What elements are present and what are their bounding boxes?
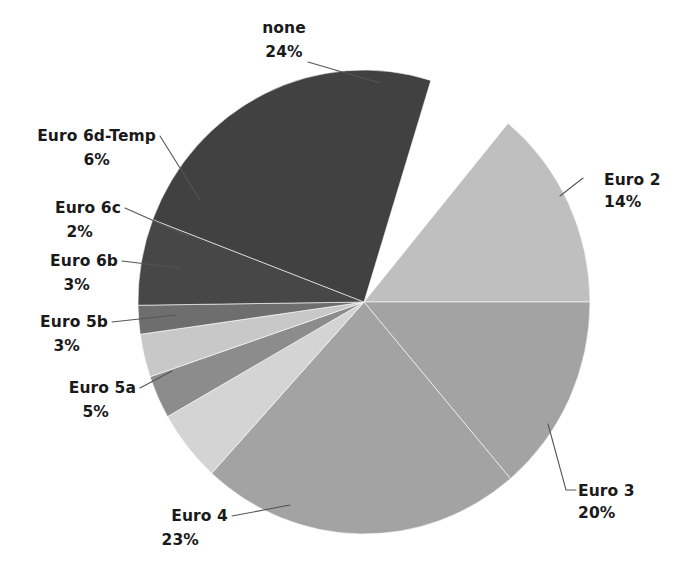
slice-label-percent-euro-4: 23% bbox=[162, 531, 200, 549]
slice-label-name-euro-6c: Euro 6c bbox=[55, 199, 121, 217]
slice-label-percent-euro-2: 14% bbox=[604, 193, 642, 211]
slice-label-name-euro-6b: Euro 6b bbox=[50, 252, 118, 270]
slice-label-name-euro-6d-temp: Euro 6d-Temp bbox=[37, 127, 156, 145]
slice-label-name-euro-4: Euro 4 bbox=[171, 507, 228, 525]
slice-label-percent-euro-6b: 3% bbox=[63, 276, 90, 294]
slice-label-percent-euro-5a: 5% bbox=[82, 403, 109, 421]
slice-label-name-euro-2: Euro 2 bbox=[604, 171, 661, 189]
pie-slices-group bbox=[138, 70, 590, 534]
pie-chart-figure: Euro 214%Euro 320%Euro 423%Euro 5a5%Euro… bbox=[0, 0, 676, 574]
slice-label-name-euro-5a: Euro 5a bbox=[69, 379, 136, 397]
slice-label-name-euro-5b: Euro 5b bbox=[40, 313, 108, 331]
slice-label-percent-none: 24% bbox=[265, 43, 303, 61]
slice-label-percent-euro-5b: 3% bbox=[53, 337, 80, 355]
slice-label-percent-euro-6c: 2% bbox=[66, 223, 93, 241]
slice-label-name-euro-3: Euro 3 bbox=[578, 482, 635, 500]
slice-label-name-none: none bbox=[262, 19, 306, 37]
pie-chart-canvas: Euro 214%Euro 320%Euro 423%Euro 5a5%Euro… bbox=[0, 0, 676, 574]
slice-label-percent-euro-6d-temp: 6% bbox=[83, 151, 110, 169]
slice-label-percent-euro-3: 20% bbox=[578, 504, 616, 522]
